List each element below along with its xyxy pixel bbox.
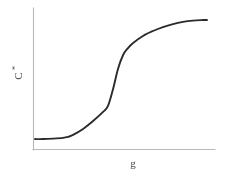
chart-figure: g C * [0, 0, 231, 174]
y-axis-label: C [12, 72, 24, 79]
y-axis-label-group: C * [11, 66, 24, 80]
y-axis-label-superscript: * [11, 66, 20, 70]
x-axis-label: g [130, 157, 136, 169]
sigmoid-curve [35, 20, 207, 139]
plot-canvas: g C * [0, 0, 231, 174]
